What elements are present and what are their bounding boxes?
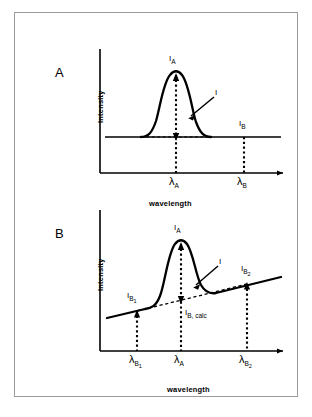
panel-b-label-signal-symbol: I <box>219 257 221 266</box>
panel-b-label-background-calc-subscript: B, calc <box>187 312 207 319</box>
panel-b-label-lambda-b2: λB2 <box>239 354 252 370</box>
panel-b-x-axis-arrowhead <box>277 348 283 353</box>
panel-b-label-lambda-b1: λB1 <box>129 354 142 370</box>
panel-b-signal-pointer-line <box>196 266 218 285</box>
panel-b-label-background-left: IB1 <box>127 292 137 304</box>
panel-b-label-signal: I <box>219 258 221 266</box>
panel-b-label-peak-intensity: IA <box>174 224 181 234</box>
panel-b-label-lambda-b1-symbol: λ <box>129 353 135 365</box>
panel-b-label-background-right-subscript: B2 <box>243 268 250 275</box>
panel-b-label-background-right: IB2 <box>241 265 251 277</box>
panel-b-peak-arrowhead-top <box>178 242 184 250</box>
panel-b-label-lambda-b2-subscript2: 2 <box>249 363 252 369</box>
panel-b-spectrum-curve <box>107 240 281 318</box>
panel-b: B Intensity wavelength <box>15 13 297 396</box>
panel-b-plot <box>15 13 299 398</box>
panel-b-label-lambda-a-subscript: A <box>180 360 184 367</box>
panel-b-label-lambda-b2-subscript: B2 <box>245 360 252 367</box>
panel-b-label-lambda-b1-subscript: B1 <box>135 360 142 367</box>
panel-b-label-lambda-b2-symbol: λ <box>239 353 245 365</box>
panel-b-label-background-left-subscript2: 1 <box>134 298 137 304</box>
panel-b-label-lambda-a: λA <box>174 354 184 368</box>
panel-b-label-background-right-subscript2: 2 <box>248 271 251 277</box>
figure-frame: A Intensity wavelength <box>14 12 298 397</box>
panel-b-label-background-left-subscript: B1 <box>129 295 136 302</box>
panel-b-label-peak-intensity-subscript: A <box>176 227 180 234</box>
panel-b-label-background-calc: IB, calc <box>185 309 207 319</box>
panel-b-label-lambda-b1-subscript2: 1 <box>139 363 142 369</box>
